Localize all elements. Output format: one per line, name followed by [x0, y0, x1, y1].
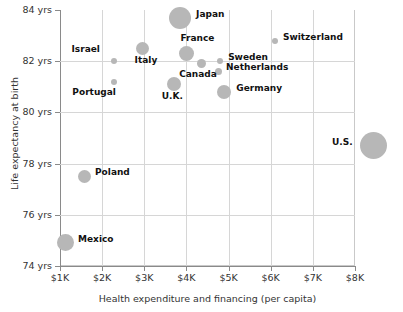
x-tick-mark	[313, 266, 314, 271]
x-tick-label-8k: $8K	[335, 272, 375, 283]
plot-area	[60, 10, 355, 266]
bubble-france[interactable]	[179, 46, 194, 61]
y-tick-label-74: 74 yrs	[0, 261, 52, 271]
y-axis-title: Life expectancy at birth	[9, 64, 20, 204]
x-tick-mark	[229, 266, 230, 271]
bubble-u-k-[interactable]	[167, 77, 181, 91]
x-tick-mark	[144, 266, 145, 271]
point-label-japan: Japan	[196, 9, 224, 19]
x-tick-mark	[186, 266, 187, 271]
x-tick-label-3k: $3K	[124, 272, 164, 283]
gridline-horizontal	[60, 215, 355, 216]
bubble-japan[interactable]	[169, 7, 191, 29]
x-tick-label-5k: $5K	[209, 272, 249, 283]
x-axis-title: Health expenditure and financing (per ca…	[60, 293, 355, 304]
x-tick-mark	[271, 266, 272, 271]
bubble-switzerland[interactable]	[272, 38, 278, 44]
x-tick-mark	[60, 266, 61, 271]
point-label-portugal: Portugal	[72, 87, 116, 97]
point-label-sweden: Sweden	[228, 52, 268, 62]
y-tick-mark	[55, 112, 60, 113]
x-tick-mark	[102, 266, 103, 271]
y-axis-line	[60, 10, 61, 267]
y-tick-mark	[55, 215, 60, 216]
gridline-vertical	[229, 10, 230, 266]
point-label-italy: Italy	[135, 55, 158, 65]
point-label-switzerland: Switzerland	[283, 32, 343, 42]
x-tick-label-2k: $2K	[82, 272, 122, 283]
gridline-vertical	[271, 10, 272, 266]
x-tick-label-1k: $1K	[40, 272, 80, 283]
point-label-u-s-: U.S.	[332, 137, 353, 147]
x-axis-line	[60, 266, 356, 267]
point-label-u-k-: U.K.	[162, 91, 183, 101]
bubble-mexico[interactable]	[57, 234, 74, 251]
x-tick-label-4k: $4K	[166, 272, 206, 283]
bubble-israel[interactable]	[111, 58, 117, 64]
gridline-horizontal	[60, 164, 355, 165]
gridline-vertical	[102, 10, 103, 266]
bubble-italy[interactable]	[136, 42, 149, 55]
y-tick-mark	[55, 61, 60, 62]
bubble-poland[interactable]	[78, 170, 91, 183]
x-tick-label-6k: $6K	[251, 272, 291, 283]
scatter-chart: 74 yrs76 yrs78 yrs80 yrs82 yrs84 yrs $1K…	[0, 0, 403, 312]
point-label-poland: Poland	[95, 167, 130, 177]
bubble-canada[interactable]	[197, 59, 206, 68]
y-tick-mark	[55, 164, 60, 165]
y-tick-mark	[55, 10, 60, 11]
gridline-vertical	[313, 10, 314, 266]
point-label-mexico: Mexico	[78, 234, 113, 244]
bubble-u-s-[interactable]	[360, 132, 387, 159]
point-label-canada: Canada	[179, 69, 217, 79]
gridline-horizontal	[60, 112, 355, 113]
point-label-israel: Israel	[72, 44, 100, 54]
point-label-france: France	[180, 33, 214, 43]
x-tick-mark	[355, 266, 356, 271]
x-tick-label-7k: $7K	[293, 272, 333, 283]
point-label-germany: Germany	[236, 83, 282, 93]
y-tick-label-76: 76 yrs	[0, 210, 52, 220]
gridline-horizontal	[60, 61, 355, 62]
y-tick-label-84: 84 yrs	[0, 5, 52, 15]
point-label-netherlands: Netherlands	[226, 62, 288, 72]
